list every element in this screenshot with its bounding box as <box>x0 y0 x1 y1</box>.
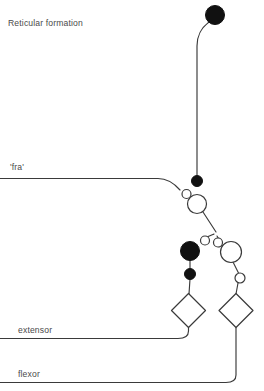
node-inhibitory-terminal <box>185 269 196 280</box>
node-extensor-motoneuron <box>172 294 206 328</box>
label-extensor: extensor <box>18 325 52 335</box>
path-lower-interneuron-axon <box>233 262 239 273</box>
node-lower-terminal <box>235 273 245 283</box>
path-fra-afferent <box>0 179 180 191</box>
neural-circuit-diagram: Reticular formation 'fra' extensor flexo… <box>0 0 264 391</box>
node-branch-terminal-b <box>214 238 223 247</box>
node-interneuron-lower <box>221 242 242 263</box>
diagram-nodes <box>172 6 254 328</box>
path-reticulospinal-axon <box>197 22 209 175</box>
node-descending-terminal <box>192 176 203 187</box>
diagram-canvas: Reticular formation 'fra' extensor flexo… <box>0 0 264 391</box>
label-flexor: flexor <box>18 369 40 379</box>
node-interneuron-upper <box>188 195 207 214</box>
path-inhibitory-to-extensor <box>189 279 190 294</box>
label-reticular-formation: Reticular formation <box>8 18 83 28</box>
label-fra: 'fra' <box>10 162 24 172</box>
diagram-labels: Reticular formation 'fra' extensor flexo… <box>8 18 83 379</box>
path-lower-terminal-to-flexor <box>236 283 238 294</box>
node-reticular-formation-soma <box>206 6 225 25</box>
node-branch-terminal-a <box>201 236 210 245</box>
node-flexor-motoneuron <box>219 294 253 328</box>
path-interneuron-upper-axon <box>203 212 216 232</box>
node-inhibitory-soma <box>181 242 200 261</box>
